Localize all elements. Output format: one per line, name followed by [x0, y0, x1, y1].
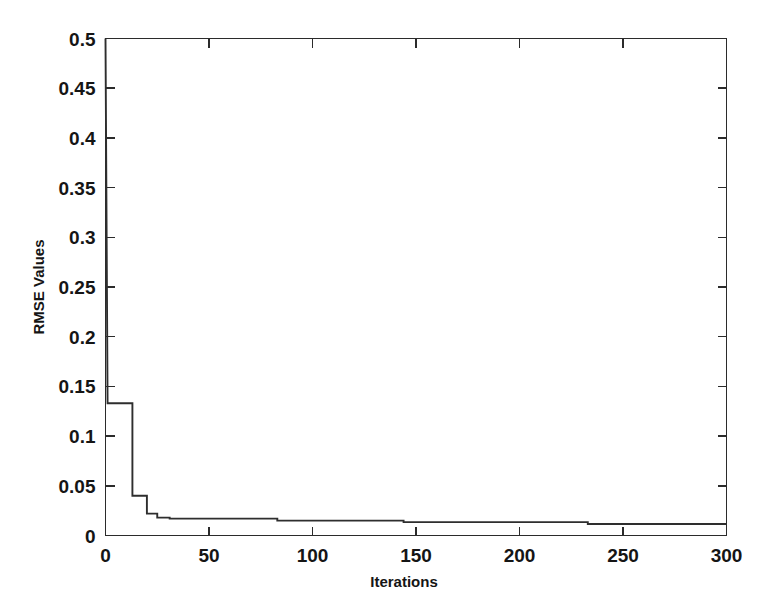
x-tick-label: 100 — [297, 545, 329, 566]
y-tick-label: 0.1 — [69, 426, 96, 447]
plot-frame — [106, 39, 727, 536]
y-tick-label: 0.25 — [59, 277, 96, 298]
x-tick-label: 300 — [711, 545, 743, 566]
x-axis-ticks: 050100150200250300 — [100, 39, 742, 566]
y-tick-label: 0.4 — [69, 128, 96, 149]
y-tick-label: 0.05 — [59, 476, 96, 497]
x-tick-label: 150 — [400, 545, 432, 566]
x-tick-label: 0 — [100, 545, 111, 566]
y-tick-label: 0.2 — [69, 327, 95, 348]
y-tick-label: 0.3 — [69, 227, 95, 248]
y-axis-title: RMSE Values — [30, 239, 47, 334]
y-tick-label: 0 — [85, 526, 96, 547]
figure-canvas: 00.050.10.150.20.250.30.350.40.450.5 050… — [0, 0, 765, 614]
y-tick-label: 0.15 — [59, 376, 96, 397]
x-tick-label: 50 — [198, 545, 219, 566]
y-tick-label: 0.45 — [59, 78, 96, 99]
rmse-series-line — [106, 39, 727, 525]
rmse-convergence-chart: 00.050.10.150.20.250.30.350.40.450.5 050… — [0, 0, 765, 614]
y-axis-ticks: 00.050.10.150.20.250.30.350.40.450.5 — [59, 29, 727, 547]
y-tick-label: 0.35 — [59, 178, 96, 199]
x-tick-label: 200 — [504, 545, 536, 566]
y-tick-label: 0.5 — [69, 29, 96, 50]
x-tick-label: 250 — [607, 545, 639, 566]
x-axis-title: Iterations — [370, 573, 438, 590]
